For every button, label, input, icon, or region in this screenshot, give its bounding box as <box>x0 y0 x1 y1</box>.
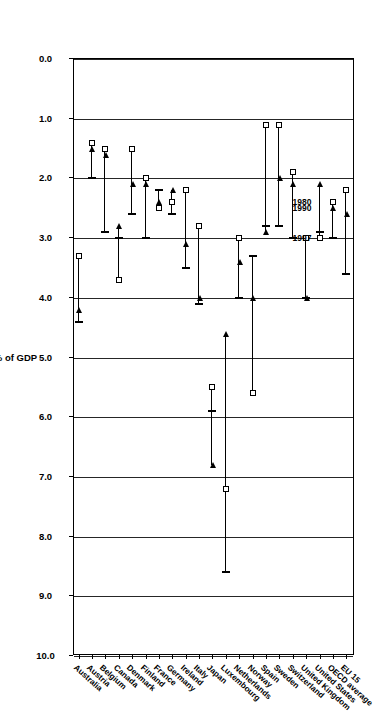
data-marker-1997-france <box>155 189 163 191</box>
category-tick-germany <box>172 655 173 659</box>
data-marker-1990-denmark <box>130 181 136 187</box>
data-marker-1997-germany <box>168 213 176 215</box>
data-marker-1990-luxembourg <box>223 331 229 337</box>
category-tick-switzerland <box>293 655 294 659</box>
category-tick-sweden <box>279 655 280 659</box>
data-marker-1997-netherlands <box>235 297 243 299</box>
data-marker-1997-finland <box>142 237 150 239</box>
gridline-1.0 <box>74 119 353 120</box>
gridline-9.0 <box>74 596 353 597</box>
axis-tick-label-8.0: 8.0 <box>26 530 66 541</box>
axis-tick-label-6.0: 6.0 <box>26 411 66 422</box>
data-marker-1990-belgium <box>103 152 109 158</box>
plot-area: 199719901980 <box>73 58 354 655</box>
axis-tick-10.0 <box>69 655 73 656</box>
axis-tick-label-9.0: 9.0 <box>26 590 66 601</box>
data-marker-1997-belgium <box>101 231 109 233</box>
category-tick-norway <box>253 655 254 659</box>
axis-tick-label-3.0: 3.0 <box>26 232 66 243</box>
data-marker-1980-denmark <box>129 146 135 152</box>
data-marker-1990-spain <box>263 229 269 235</box>
data-marker-1990-norway <box>250 295 256 301</box>
data-marker-1980-eu-15 <box>343 187 349 193</box>
data-marker-1980-switzerland <box>290 169 296 175</box>
data-marker-1980-luxembourg <box>223 486 229 492</box>
data-marker-1980-germany <box>169 199 175 205</box>
data-marker-1990-germany <box>170 187 176 193</box>
data-marker-1997-norway <box>249 255 257 257</box>
category-tick-spain <box>266 655 267 659</box>
gridline-10.0 <box>74 656 353 657</box>
row-connector-line <box>305 238 306 298</box>
row-connector-line <box>345 190 346 274</box>
data-marker-1997-eu-15 <box>342 273 350 275</box>
category-tick-luxembourg <box>226 655 227 659</box>
data-marker-1997-united-kingdom <box>302 297 310 299</box>
data-marker-1980-ireland <box>183 187 189 193</box>
data-marker-1980-france <box>156 205 162 211</box>
gridline-7.0 <box>74 477 353 478</box>
data-marker-1980-japan <box>210 384 216 390</box>
category-tick-eu-15 <box>346 655 347 659</box>
category-tick-denmark <box>132 655 133 659</box>
data-marker-1980-norway <box>250 390 256 396</box>
category-tick-japan <box>213 655 214 659</box>
data-marker-1990-austria <box>89 146 95 152</box>
data-marker-1997-luxembourg <box>222 571 230 573</box>
data-marker-1997-oecd-average <box>329 237 337 239</box>
data-marker-1997-japan <box>209 410 217 412</box>
row-connector-line <box>212 387 213 465</box>
category-tick-canada <box>119 655 120 659</box>
category-tick-belgium <box>105 655 106 659</box>
data-marker-1997-australia <box>75 321 83 323</box>
legend-label-1980: 1980 <box>285 197 319 207</box>
data-marker-1997-spain <box>262 225 270 227</box>
data-marker-1997-austria <box>88 177 96 179</box>
row-connector-line <box>238 238 239 298</box>
row-connector-line <box>225 334 226 573</box>
data-marker-1990-eu-15 <box>344 211 350 217</box>
data-marker-1990-ireland <box>183 241 189 247</box>
data-marker-1990-japan <box>210 462 216 468</box>
axis-tick-label-0.0: 0.0 <box>26 53 66 64</box>
legend-label-1997: 1997 <box>285 233 319 243</box>
gridline-5.0 <box>74 358 353 359</box>
data-marker-1990-oecd-average <box>330 205 336 211</box>
axis-tick-label-7.0: 7.0 <box>26 470 66 481</box>
row-connector-line <box>198 226 199 304</box>
category-tick-italy <box>199 655 200 659</box>
data-marker-1997-sweden <box>275 225 283 227</box>
data-marker-1990-italy <box>197 295 203 301</box>
gridline-2.0 <box>74 178 353 179</box>
data-marker-1980-italy <box>196 223 202 229</box>
data-marker-1997-denmark <box>128 213 136 215</box>
category-tick-france <box>159 655 160 659</box>
axis-tick-label-1.0: 1.0 <box>26 112 66 123</box>
category-tick-oecd-average <box>333 655 334 659</box>
data-marker-1990-france <box>156 199 162 205</box>
data-marker-1990-switzerland <box>290 181 296 187</box>
data-marker-1980-netherlands <box>236 235 242 241</box>
category-tick-united-kingdom <box>306 655 307 659</box>
gridline-0.0 <box>74 59 353 60</box>
row-connector-line <box>118 226 119 280</box>
data-marker-1990-canada <box>116 223 122 229</box>
data-marker-1997-ireland <box>182 267 190 269</box>
category-tick-ireland <box>186 655 187 659</box>
category-tick-australia <box>79 655 80 659</box>
category-tick-finland <box>146 655 147 659</box>
data-marker-1997-canada <box>115 237 123 239</box>
category-tick-netherlands <box>239 655 240 659</box>
axis-tick-label-5.0: 5.0 <box>26 351 66 362</box>
row-connector-line <box>265 125 266 232</box>
data-marker-1990-finland <box>143 181 149 187</box>
category-tick-united-states <box>320 655 321 659</box>
data-marker-1980-spain <box>263 122 269 128</box>
category-tick-austria <box>92 655 93 659</box>
data-marker-1980-canada <box>116 277 122 283</box>
row-connector-line <box>185 190 186 268</box>
gridline-8.0 <box>74 537 353 538</box>
data-marker-1990-australia <box>76 307 82 313</box>
data-marker-1990-sweden <box>277 175 283 181</box>
